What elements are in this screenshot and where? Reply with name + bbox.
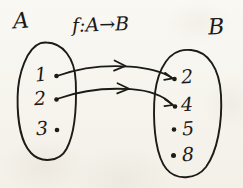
dot-b-8 <box>171 153 176 158</box>
element-a-1: 1 <box>34 65 48 85</box>
element-a-3: 3 <box>36 119 49 139</box>
element-b-8: 8 <box>182 145 195 165</box>
dot-a-3 <box>55 128 60 133</box>
element-b-2: 2 <box>180 67 193 87</box>
dot-a-1 <box>54 74 59 79</box>
element-b-5: 5 <box>181 119 194 139</box>
mapping-arrow-2-to-4-head <box>164 99 173 106</box>
set-b-label: B <box>207 16 224 39</box>
dot-a-2 <box>54 97 59 102</box>
element-a-2: 2 <box>34 89 47 109</box>
dot-b-5 <box>172 127 177 132</box>
set-a-oval <box>18 42 76 159</box>
set-a-label: A <box>12 9 29 32</box>
dot-b-4 <box>173 104 178 109</box>
mapping-diagram-canvas: A B f:A→B 1 2 3 2 4 5 8 <box>0 0 243 188</box>
dot-b-2 <box>172 77 177 82</box>
element-b-4: 4 <box>181 95 194 115</box>
mapping-arrow-1-to-2-head <box>164 73 172 80</box>
function-notation-label: f:A→B <box>72 14 130 35</box>
